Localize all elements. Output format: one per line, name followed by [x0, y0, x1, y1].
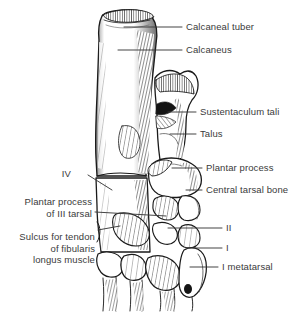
metatarsal-i-shape: [179, 248, 206, 298]
label-sulcus-fibularis-longus: Sulcus for tendon of fibularis longus mu…: [19, 231, 95, 266]
label-sustentaculum-tali: Sustentaculum tali: [200, 106, 279, 118]
label-calcaneal-tuber: Calcaneal tuber: [186, 21, 254, 33]
anatomy-figure: Calcaneal tuber Calcaneus Sustentaculum …: [0, 0, 303, 314]
distal-tarsal-row: [153, 196, 200, 248]
label-plantar-process-iii-tarsal: Plantar process of III tarsal: [24, 196, 92, 219]
label-line-2: of III tarsal: [46, 208, 92, 219]
label-tarsal-iv: IV: [62, 168, 71, 180]
label-calcaneus: Calcaneus: [186, 44, 232, 56]
label-line-3: longus muscle: [33, 254, 95, 265]
label-central-tarsal-bone: Central tarsal bone: [206, 184, 288, 196]
label-tarsal-ii: II: [226, 222, 231, 234]
label-line-1: Plantar process: [24, 196, 92, 207]
label-plantar-process: Plantar process: [206, 162, 274, 174]
metatarsal-bones: [97, 248, 207, 311]
label-metatarsal-i: I metatarsal: [222, 261, 273, 273]
label-tarsal-i: I: [226, 242, 229, 254]
calcaneus-bone: [96, 10, 157, 176]
talus-bone: [155, 71, 198, 160]
tarsal-i-shape: [153, 222, 178, 244]
label-talus: Talus: [200, 128, 223, 140]
label-line-1: Sulcus for tendon: [19, 231, 95, 242]
label-line-2: of fibularis: [51, 243, 96, 254]
central-tarsal-bone-shape: [148, 158, 201, 197]
